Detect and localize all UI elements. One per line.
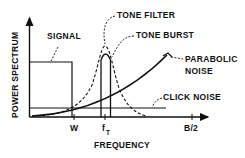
click-noise-leader: [152, 98, 162, 107]
signal-label: SIGNAL: [47, 31, 81, 41]
tick-label-b2: B/2: [184, 123, 198, 133]
click-noise-label: CLICK NOISE: [163, 92, 221, 102]
parabolic-leader: [171, 57, 183, 59]
tone-filter-label: TONE FILTER: [117, 10, 175, 20]
tick-label-ft-sub: T: [106, 129, 110, 136]
parabolic-noise-label-2: NOISE: [185, 66, 213, 76]
x-axis-label: FREQUENCY: [94, 140, 150, 150]
parabolic-noise-label-1: PARABOLIC: [185, 54, 238, 64]
tick-label-w: W: [70, 123, 79, 133]
signal-leader: [51, 47, 58, 61]
parabolic-noise-curve: [32, 55, 167, 116]
tone-burst-leader: [112, 36, 134, 57]
spectrum-diagram: SIGNAL TONE FILTER TONE BURST PARABOLIC …: [0, 0, 245, 158]
tick-label-ft: f: [102, 123, 105, 133]
y-axis-label: POWER SPECTRUM: [10, 32, 20, 118]
signal-spectrum: [30, 62, 73, 117]
parabolic-noise-arrowhead: [163, 53, 172, 57]
tone-burst-label: TONE BURST: [136, 30, 195, 40]
tone-filter-leader: [104, 16, 115, 44]
